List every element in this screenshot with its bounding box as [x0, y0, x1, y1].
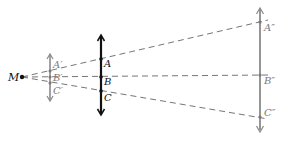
label-c-double-prime: C″	[264, 107, 276, 118]
label-b-prime: B′	[52, 72, 63, 83]
label-a-double-prime: A″	[263, 22, 275, 33]
point-b-prime	[49, 76, 52, 79]
diagram-canvas: M A′ B′ C′ A B C	[0, 0, 289, 141]
black-arrow: A B C	[98, 35, 113, 115]
large-gray-arrow: A″ B″ C″	[257, 8, 276, 132]
small-gray-arrow: A′ B′ C′	[47, 54, 64, 101]
label-c-prime: C′	[53, 85, 64, 96]
label-m: M	[7, 71, 20, 84]
label-b-double-prime: B″	[263, 75, 275, 86]
point-c-prime	[49, 82, 52, 85]
label-b: B	[103, 76, 111, 87]
point-b	[99, 75, 103, 79]
ray-to-c-double-prime	[22, 77, 268, 119]
point-a	[99, 57, 103, 61]
label-a: A	[103, 58, 111, 69]
label-a-prime: A′	[52, 59, 63, 70]
point-b-double-prime	[258, 73, 261, 76]
label-c: C	[104, 92, 112, 103]
point-a-double-prime	[258, 20, 261, 23]
point-c-double-prime	[258, 115, 261, 118]
point-m	[20, 75, 24, 79]
point-a-prime	[49, 70, 52, 73]
point-c	[99, 89, 103, 93]
